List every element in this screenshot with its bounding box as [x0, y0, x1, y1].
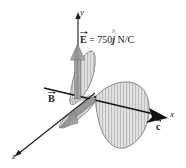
- c-vector-symbol: c: [156, 122, 160, 132]
- e-vector-symbol: E: [80, 34, 87, 45]
- y-axis-label: y: [80, 8, 84, 17]
- c-symbol-glyph: c: [156, 122, 160, 132]
- x-axis-label: x: [170, 110, 174, 119]
- electric-field-wave-negative-lobe: [96, 82, 149, 148]
- b-symbol-glyph: B: [48, 94, 55, 104]
- em-wave-figure: y x z E = 750 ^ j N/C B: [0, 0, 186, 168]
- e-field-equation: E = 750 ^ j N/C: [80, 34, 134, 45]
- e-equation-rest: = 750: [87, 34, 113, 45]
- c-vector-label: c: [156, 122, 160, 132]
- b-field-label: B: [48, 94, 55, 104]
- z-axis-label: z: [12, 152, 16, 161]
- hat-accent-icon: ^: [112, 29, 116, 37]
- b-vector-symbol: B: [48, 94, 55, 104]
- e-field-units: N/C: [115, 34, 134, 45]
- origin-point: [94, 96, 96, 98]
- j-unit-vector: ^ j: [112, 34, 115, 45]
- e-symbol-glyph: E: [80, 34, 87, 45]
- figure-canvas: [0, 0, 186, 168]
